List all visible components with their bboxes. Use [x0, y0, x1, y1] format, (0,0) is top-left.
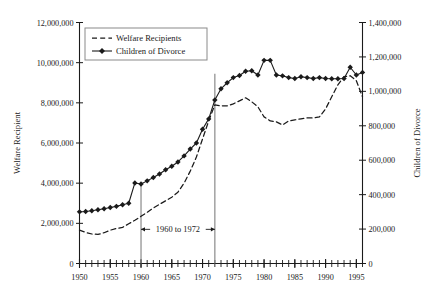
data-marker-1982 [274, 72, 279, 77]
x-tick-label-1975: 1975 [225, 273, 241, 282]
y-tick-label-right-600000: 600,000 [369, 156, 396, 165]
y-tick-label-right-1000000: 1,000,000 [369, 87, 402, 96]
data-marker-1951 [83, 209, 88, 214]
annotation-arrowhead-left [141, 227, 145, 231]
legend-label-welfare-recipients: Welfare Recipients [116, 33, 182, 43]
data-marker-1962 [151, 175, 156, 180]
x-tick-label-1970: 1970 [194, 273, 210, 282]
data-marker-1985 [292, 76, 297, 81]
data-marker-1981 [268, 58, 273, 63]
data-marker-1953 [95, 207, 100, 212]
y-tick-label-right-0: 0 [369, 260, 373, 269]
x-tick-label-1965: 1965 [164, 273, 180, 282]
y-tick-label-right-1400000: 1,400,000 [369, 19, 402, 28]
data-marker-1961 [144, 178, 149, 183]
data-marker-1952 [89, 208, 94, 213]
data-marker-1988 [311, 76, 316, 81]
welfare-divorce-line-chart: 02,000,0004,000,0006,000,0008,000,00010,… [0, 0, 437, 299]
series-line-welfare-recipients [80, 76, 363, 235]
data-marker-1996 [360, 70, 365, 75]
data-marker-1972 [212, 97, 217, 102]
chart-container: 02,000,0004,000,0006,000,0008,000,00010,… [0, 0, 437, 299]
y-tick-label-left-12000000: 12,000,000 [37, 19, 74, 28]
y-tick-label-right-800000: 800,000 [369, 122, 396, 131]
x-tick-label-1950: 1950 [71, 273, 87, 282]
data-marker-1954 [101, 206, 106, 211]
x-tick-label-1990: 1990 [317, 273, 333, 282]
x-tick-label-1960: 1960 [133, 273, 149, 282]
x-tick-label-1995: 1995 [348, 273, 364, 282]
data-marker-1959 [132, 180, 137, 185]
legend-label-children-of-divorce: Children of Divorce [116, 46, 185, 56]
x-tick-label-1985: 1985 [287, 273, 303, 282]
y-axis-right-title: Children of Divorce [412, 108, 422, 177]
x-tick-label-1980: 1980 [256, 273, 272, 282]
data-marker-1970 [200, 127, 205, 132]
data-marker-1955 [108, 205, 113, 210]
data-marker-1980 [261, 58, 266, 63]
data-marker-1986 [298, 74, 303, 79]
y-tick-label-left-6000000: 6,000,000 [41, 139, 74, 148]
y-tick-label-right-200000: 200,000 [369, 225, 396, 234]
data-marker-1957 [120, 202, 125, 207]
data-marker-1984 [286, 75, 291, 80]
annotation-range-label: 1960 to 1972 [156, 225, 200, 234]
series-line-children-of-divorce [80, 60, 363, 211]
data-marker-1956 [114, 204, 119, 209]
data-marker-1950 [77, 209, 82, 214]
y-tick-label-left-8000000: 8,000,000 [41, 99, 74, 108]
y-axis-left-title: Welfare Recipient [12, 111, 22, 174]
data-marker-1989 [317, 75, 322, 80]
y-tick-label-left-2000000: 2,000,000 [41, 219, 74, 228]
x-tick-label-1955: 1955 [102, 273, 118, 282]
y-tick-label-left-10000000: 10,000,000 [37, 59, 74, 68]
data-marker-1983 [280, 73, 285, 78]
data-marker-1992 [335, 76, 340, 81]
data-marker-1960 [138, 181, 143, 186]
data-marker-1990 [323, 76, 328, 81]
data-marker-1987 [304, 75, 309, 80]
y-tick-label-right-400000: 400,000 [369, 191, 396, 200]
y-tick-label-right-1200000: 1,200,000 [369, 53, 402, 62]
y-tick-label-left-4000000: 4,000,000 [41, 179, 74, 188]
data-marker-1991 [329, 76, 334, 81]
data-marker-1958 [126, 201, 131, 206]
y-tick-label-left-0: 0 [69, 260, 73, 269]
